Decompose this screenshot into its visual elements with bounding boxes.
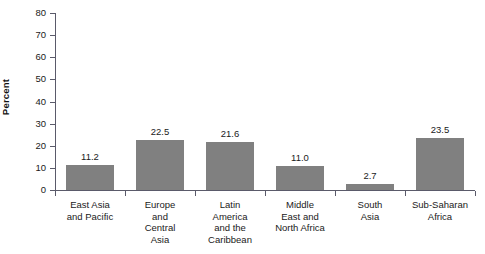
x-axis-category-label-line: Central bbox=[125, 222, 195, 234]
bar-value-label: 11.2 bbox=[60, 152, 120, 162]
x-axis-tick bbox=[335, 191, 336, 196]
x-axis-category-label-line: East Asia bbox=[55, 199, 125, 211]
x-axis-category-label-line: Latin bbox=[195, 199, 265, 211]
y-axis-tick-label: 70 bbox=[18, 30, 46, 40]
x-axis-tick bbox=[265, 191, 266, 196]
x-axis-tick bbox=[475, 191, 476, 196]
x-axis-category-label-line: Africa bbox=[405, 211, 475, 223]
x-axis-category-label-line: and Pacific bbox=[55, 211, 125, 223]
x-axis-category-label: East Asiaand Pacific bbox=[55, 199, 125, 222]
bar-chart: Percent 01020304050607080 11.222.521.611… bbox=[0, 0, 485, 254]
y-axis-tick-label: 40 bbox=[18, 97, 46, 107]
x-axis-category-label-line: East and bbox=[265, 211, 335, 223]
cropped-title-sliver bbox=[0, 0, 485, 5]
x-axis-category-label-line: and bbox=[125, 211, 195, 223]
bar bbox=[206, 142, 254, 190]
x-axis-category-label-line: South bbox=[335, 199, 405, 211]
x-axis-category-label-line: Asia bbox=[335, 211, 405, 223]
y-axis-tick-label: 60 bbox=[18, 52, 46, 62]
bar-value-label: 2.7 bbox=[340, 171, 400, 181]
x-axis-category-label: SouthAsia bbox=[335, 199, 405, 222]
x-axis-category-label-line: North Africa bbox=[265, 222, 335, 234]
bar bbox=[346, 184, 394, 190]
bar-value-label: 11.0 bbox=[270, 153, 330, 163]
bar-value-label: 22.5 bbox=[130, 127, 190, 137]
y-axis-tick-label: 20 bbox=[18, 141, 46, 151]
y-axis-title: Percent bbox=[0, 62, 11, 132]
bars-layer bbox=[55, 13, 475, 190]
bar bbox=[136, 140, 184, 190]
x-axis-tick bbox=[195, 191, 196, 196]
x-axis-category-label-line: Europe bbox=[125, 199, 195, 211]
x-axis-category-label: LatinAmericaand theCaribbean bbox=[195, 199, 265, 245]
x-axis-category-label-line: Middle bbox=[265, 199, 335, 211]
x-axis-category-label: MiddleEast andNorth Africa bbox=[265, 199, 335, 234]
bar bbox=[416, 138, 464, 190]
x-axis-category-label-line: Sub-Saharan bbox=[405, 199, 475, 211]
y-axis-tick-label: 50 bbox=[18, 74, 46, 84]
x-axis-category-label-line: America bbox=[195, 211, 265, 223]
bar bbox=[66, 165, 114, 190]
x-axis-category-label-line: Asia bbox=[125, 234, 195, 246]
bar-value-label: 23.5 bbox=[410, 125, 470, 135]
y-axis-tick-label: 30 bbox=[18, 119, 46, 129]
x-axis-category-label-line: and the bbox=[195, 222, 265, 234]
y-axis-tick-label: 80 bbox=[18, 8, 46, 18]
x-axis-tick bbox=[125, 191, 126, 196]
x-axis-tick bbox=[405, 191, 406, 196]
x-axis-tick bbox=[55, 191, 56, 196]
bar-value-label: 21.6 bbox=[200, 129, 260, 139]
y-axis-tick-label: 0 bbox=[18, 185, 46, 195]
y-axis-tick-label: 10 bbox=[18, 163, 46, 173]
x-axis-category-label: Sub-SaharanAfrica bbox=[405, 199, 475, 222]
x-axis-category-label: EuropeandCentralAsia bbox=[125, 199, 195, 245]
x-axis-category-label-line: Caribbean bbox=[195, 234, 265, 246]
bar bbox=[276, 166, 324, 190]
